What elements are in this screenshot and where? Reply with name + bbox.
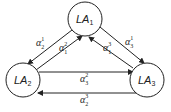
- edge-la1-to-la2: [28, 30, 72, 64]
- edge-label-la2-la3: α23: [80, 72, 88, 86]
- edge-label-la3-la1: α31: [103, 41, 111, 55]
- node-la1: LA1: [68, 2, 102, 36]
- edge-label-la1-la3: α13: [125, 35, 133, 49]
- edge-label-la1-la2: α12: [36, 36, 44, 50]
- node-la2: LA2: [6, 63, 40, 97]
- learning-automata-diagram: LA1 LA2 LA3 α12 α21 α31 α13 α23 α32: [0, 0, 171, 112]
- edge-label-la3-la2: α32: [80, 93, 88, 107]
- node-la3: LA3: [130, 63, 164, 97]
